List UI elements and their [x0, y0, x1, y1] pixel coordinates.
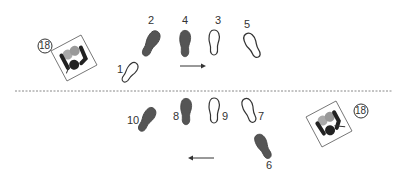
- step-label-6: 6: [266, 160, 272, 171]
- footprint-5: [241, 31, 263, 59]
- footprint-8: [181, 98, 192, 124]
- footprint-7: [240, 97, 259, 124]
- step-label-2: 2: [148, 15, 154, 26]
- footprint-9: [209, 98, 219, 123]
- step-label-8: 8: [173, 111, 179, 122]
- step-label-3: 3: [215, 15, 221, 26]
- footprint-2: [139, 29, 162, 59]
- dancer-couple-icon-upper: [51, 35, 97, 81]
- step-label-5: 5: [244, 19, 250, 30]
- arrow-right-icon: [180, 64, 206, 69]
- footprint-3: [209, 30, 219, 55]
- badge-number-lower: 18: [355, 106, 366, 116]
- badge-number-upper: 18: [39, 41, 50, 51]
- step-label-9: 9: [222, 111, 228, 122]
- step-label-4: 4: [182, 15, 188, 26]
- footprint-4: [180, 30, 191, 56]
- footstep-diagram: [0, 0, 407, 183]
- arrow-left-icon: [188, 156, 214, 161]
- step-label-10: 10: [127, 115, 139, 126]
- footprint-6: [252, 132, 274, 160]
- step-label-1: 1: [117, 64, 123, 75]
- dancer-couple-icon-lower: [306, 101, 352, 147]
- step-label-7: 7: [258, 111, 264, 122]
